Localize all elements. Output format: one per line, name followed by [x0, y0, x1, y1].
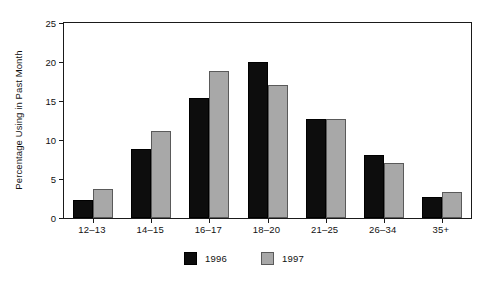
x-axis-tick: [209, 218, 210, 223]
bar-1996-14–15: [131, 149, 151, 218]
bar-1996-18–20: [248, 62, 268, 218]
y-axis-tick-label: 25: [45, 18, 56, 29]
x-axis-tick-label: 26–34: [369, 224, 396, 235]
y-axis-tick-label: 20: [45, 57, 56, 68]
y-axis-tick: [59, 218, 64, 219]
x-axis-tick-label: 12–13: [78, 224, 105, 235]
y-axis-tick-label: 15: [45, 96, 56, 107]
x-axis-tick: [326, 218, 327, 223]
x-axis-tick-label: 14–15: [136, 224, 163, 235]
legend-label: 1996: [205, 253, 227, 264]
bar-1997-21–25: [326, 119, 346, 218]
bar-chart-figure: Percentage Using in Past Month 051015202…: [0, 0, 488, 286]
x-axis-tick-label: 35+: [433, 224, 450, 235]
bar-1997-18–20: [268, 85, 288, 218]
x-axis-tick-label: 21–25: [311, 224, 338, 235]
x-axis-tick: [442, 218, 443, 223]
bar-1996-12–13: [73, 200, 93, 218]
bar-1997-12–13: [93, 189, 113, 218]
bar-1997-16–17: [209, 71, 229, 218]
x-axis-tick: [151, 218, 152, 223]
x-axis-tick-label: 16–17: [195, 224, 222, 235]
y-axis-tick: [59, 62, 64, 63]
plot-frame: 0510152025: [63, 22, 472, 219]
y-axis-tick: [59, 179, 64, 180]
bar-1997-35+: [442, 192, 462, 218]
bar-1996-21–25: [306, 119, 326, 218]
gray-square-swatch: [261, 252, 274, 265]
legend-entry-1996: 1996: [184, 252, 227, 265]
black-square-swatch: [184, 252, 197, 265]
legend-label: 1997: [282, 253, 304, 264]
y-axis-tick-label: 0: [51, 213, 56, 224]
x-axis-tick-label: 18–20: [253, 224, 280, 235]
y-axis-tick: [59, 101, 64, 102]
bar-1996-26–34: [364, 155, 384, 218]
y-axis-tick-label: 10: [45, 135, 56, 146]
x-axis-tick: [268, 218, 269, 223]
legend-entry-1997: 1997: [261, 252, 304, 265]
x-axis-tick: [93, 218, 94, 223]
y-axis-tick: [59, 140, 64, 141]
x-axis-tick: [384, 218, 385, 223]
bar-1997-26–34: [384, 163, 404, 218]
y-axis-tick: [59, 23, 64, 24]
bar-1997-14–15: [151, 131, 171, 218]
plot-area: 0510152025: [64, 23, 471, 218]
chart-legend: 19961997: [0, 252, 488, 265]
bar-1996-16–17: [189, 98, 209, 218]
bar-1996-35+: [422, 197, 442, 218]
y-axis-tick-label: 5: [51, 174, 56, 185]
y-axis-title: Percentage Using in Past Month: [10, 22, 28, 218]
